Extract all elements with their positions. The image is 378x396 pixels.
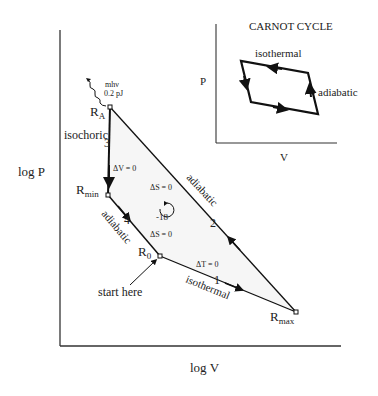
label-isochoric: isochoric [64,128,108,142]
label-delta-s-lower: ΔS = 0 [150,230,172,239]
label-delta-t: ΔT = 0 [196,260,218,269]
inset-title: CARNOT CYCLE [249,20,333,32]
label-delta-v: ΔV = 0 [113,164,136,173]
point-rmin: Rmin [76,182,99,199]
step-2: 2 [210,216,216,230]
label-start-here: start here [98,285,142,299]
point-rmax: Rmax [270,309,295,326]
label-delta-s-upper: ΔS = 0 [150,183,172,192]
step-4: 4 [124,213,130,227]
photon-arrowhead-icon [86,78,91,82]
inset-y-axis-label: P [200,75,206,87]
start-arrow-icon [130,261,155,285]
inset-carnot-cycle [216,24,337,143]
x-axis-label: log V [190,360,220,375]
photon-label-energy-quantum: mhν [105,80,119,89]
inset-label-isothermal: isothermal [255,47,301,59]
point-ra: RA [90,104,106,121]
point-r0: R0 [138,244,152,261]
photon-label-energy: 0.2 pJ [104,89,123,98]
cycle-marker-label: -18 [156,212,168,222]
thermodynamic-cycle-diagram: log P log V RA Rmin R0 Rmax mhν 0.2 pJ 3… [0,0,378,396]
inset-arrow-up-icon [310,88,311,97]
inset-label-adiabatic: adiabatic [318,86,358,98]
inset-x-axis-label: V [280,151,288,163]
y-axis-label: log P [18,164,45,179]
